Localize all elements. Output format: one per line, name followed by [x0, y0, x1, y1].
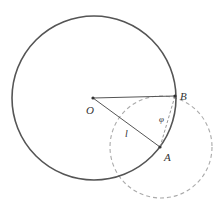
label-l: l: [125, 128, 128, 139]
label-A: A: [163, 151, 171, 163]
point-O: [91, 96, 94, 99]
label-phi: φ: [159, 114, 164, 124]
geometry-diagram: O B A l φ: [0, 0, 222, 206]
label-B: B: [180, 90, 187, 102]
segment-OA: [93, 98, 160, 147]
point-B: [173, 94, 176, 97]
point-A: [158, 145, 161, 148]
label-O: O: [86, 104, 94, 116]
segment-OB: [93, 96, 175, 98]
